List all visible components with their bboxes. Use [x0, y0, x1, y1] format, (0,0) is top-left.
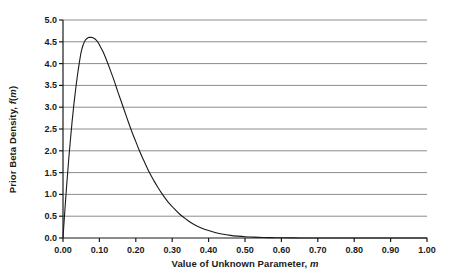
x-tick-label: 0.90: [382, 245, 400, 255]
y-tick-label: 2.0: [25, 146, 57, 156]
y-tick-label: 4.5: [25, 37, 57, 47]
x-tick-label: 0.60: [273, 245, 291, 255]
y-tick-label: 1.0: [25, 189, 57, 199]
x-tick-label: 0.10: [91, 245, 109, 255]
y-tick-label: 0.0: [25, 233, 57, 243]
x-tick-label: 0.40: [200, 245, 218, 255]
y-tick-label: 4.0: [25, 59, 57, 69]
y-tick-label: 1.5: [25, 168, 57, 178]
x-tick-label: 0.50: [236, 245, 254, 255]
plot-canvas: [0, 0, 462, 278]
x-tick-label: 0.00: [54, 245, 72, 255]
x-tick-label: 0.20: [127, 245, 145, 255]
y-tick-label: 2.5: [25, 124, 57, 134]
y-tick-label: 0.5: [25, 211, 57, 221]
x-tick-label: 0.70: [309, 245, 327, 255]
density-curve: [63, 37, 427, 238]
tick-marks: [59, 20, 427, 242]
x-tick-label: 0.80: [345, 245, 363, 255]
y-tick-label: 3.5: [25, 80, 57, 90]
chart-figure: Prior Beta Density, f(m) Value of Unknow…: [0, 0, 462, 278]
y-tick-label: 3.0: [25, 102, 57, 112]
x-tick-label: 1.00: [418, 245, 436, 255]
y-tick-label: 5.0: [25, 15, 57, 25]
x-tick-label: 0.30: [163, 245, 181, 255]
gridlines: [63, 20, 427, 216]
